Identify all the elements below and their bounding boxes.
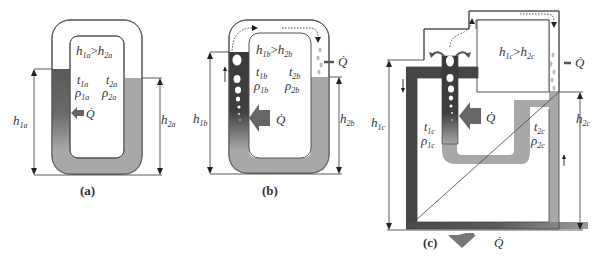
svg-text:h2c: h2c xyxy=(576,111,591,128)
svg-text:Q̇: Q̇ xyxy=(338,54,348,69)
svg-text:Q̇: Q̇ xyxy=(575,55,585,70)
svg-text:h1a: h1a xyxy=(13,113,28,130)
caption-c: (c) xyxy=(423,235,437,250)
svg-text:h2a: h2a xyxy=(161,112,176,129)
svg-text:h1c: h1c xyxy=(371,115,386,132)
panel-b: h1b>h2b t1b ρ1b t2b ρ2b Q̇ Q̇ h1b h2b (b… xyxy=(193,20,355,198)
caption-b: (b) xyxy=(262,183,278,198)
panel-c: h1c>h2c t1c ρ1c t2c ρ2c Q̇ Q̇ Q̇ h1c h2c… xyxy=(371,11,591,250)
svg-text:h1b: h1b xyxy=(193,111,208,128)
svg-text:Q̇: Q̇ xyxy=(276,112,286,127)
svg-text:Q̇: Q̇ xyxy=(486,110,496,125)
svg-text:h2b: h2b xyxy=(340,111,355,128)
svg-text:Q̇: Q̇ xyxy=(494,235,504,250)
thermosiphon-figure: h1a>h2a t1a ρ1a t2a ρ2a Q̇ h1a h2a (a) xyxy=(0,0,603,265)
caption-a: (a) xyxy=(80,183,95,198)
svg-text:Q̇: Q̇ xyxy=(86,107,95,121)
panel-a: h1a>h2a t1a ρ1a t2a ρ2a Q̇ h1a h2a (a) xyxy=(13,20,176,198)
heat-input-arrow-icon xyxy=(459,102,481,130)
